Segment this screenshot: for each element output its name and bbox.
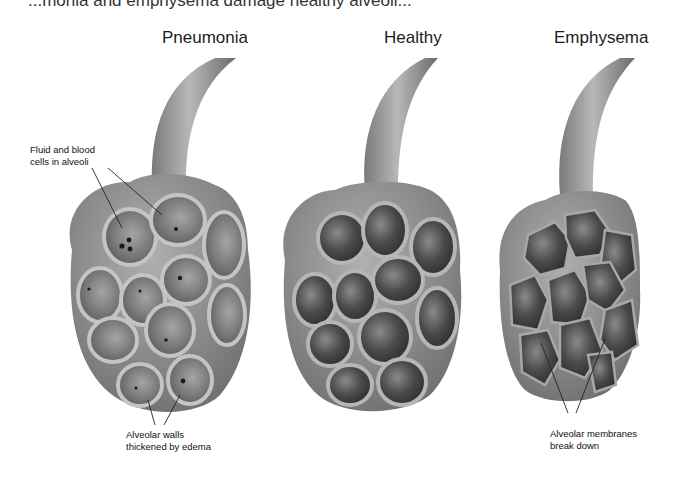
alveoli-illustration [0, 0, 689, 477]
annotation-line: Alveolar membranes [550, 428, 637, 440]
annotation-line: break down [550, 440, 637, 452]
annotation-membranes-break-down: Alveolar membranes break down [550, 428, 637, 451]
annotation-line: Alveolar walls [126, 429, 211, 441]
annotation-alveolar-walls-thickened: Alveolar walls thickened by edema [126, 429, 211, 452]
emphysema-alveoli [499, 58, 640, 413]
annotation-line: thickened by edema [126, 441, 211, 453]
annotation-line: Fluid and blood [30, 144, 95, 156]
healthy-alveoli [283, 58, 461, 411]
annotation-fluid-blood-cells: Fluid and blood cells in alveoli [30, 144, 95, 167]
annotation-line: cells in alveoli [30, 156, 95, 168]
pneumonia-alveoli [70, 58, 251, 425]
